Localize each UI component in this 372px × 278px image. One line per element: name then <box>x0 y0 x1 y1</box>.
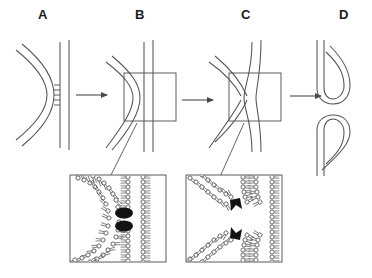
panel-b-highlight-box <box>124 73 176 121</box>
panel-d-lower-inner-line <box>317 115 350 176</box>
panel-label-c: C <box>241 8 251 21</box>
panel-a-vesicle-inner-line <box>16 50 47 140</box>
panel-c-arm-upper-left-inner <box>209 62 241 96</box>
inset-left <box>68 170 166 265</box>
panel-d-upper-inner-line <box>317 40 350 104</box>
leader-line-b-to-left-inset <box>110 123 137 177</box>
panel-d-upper-outer-line <box>324 40 344 99</box>
panel-c-graphic <box>209 40 281 152</box>
inset-left-frame <box>70 175 166 262</box>
panel-c-stalk-line-left <box>244 42 252 152</box>
panel-a-graphic <box>16 40 69 150</box>
panel-label-b: B <box>135 8 145 21</box>
panel-c-highlight-box <box>229 73 281 121</box>
inset-left-protein-complex-lower <box>115 221 133 232</box>
leader-line-c-to-right-inset <box>219 123 244 179</box>
inset-left-protein-complex-upper <box>115 208 133 219</box>
inset-right <box>183 164 282 270</box>
panel-label-a: A <box>38 8 48 21</box>
figure-canvas <box>0 0 372 278</box>
membrane-fusion-figure: A B C D <box>0 0 372 278</box>
panel-d-graphic <box>317 40 350 176</box>
panel-a-tether-marks <box>54 85 60 105</box>
panel-d-lower-outer-line <box>324 119 344 176</box>
panel-c-arm-upper-left-outer <box>215 56 247 96</box>
panel-c-stalk-line-right <box>256 40 261 152</box>
panel-b-vesicle-inner-line <box>106 62 133 148</box>
panel-label-d: D <box>339 8 349 21</box>
panel-b-graphic <box>106 40 176 152</box>
